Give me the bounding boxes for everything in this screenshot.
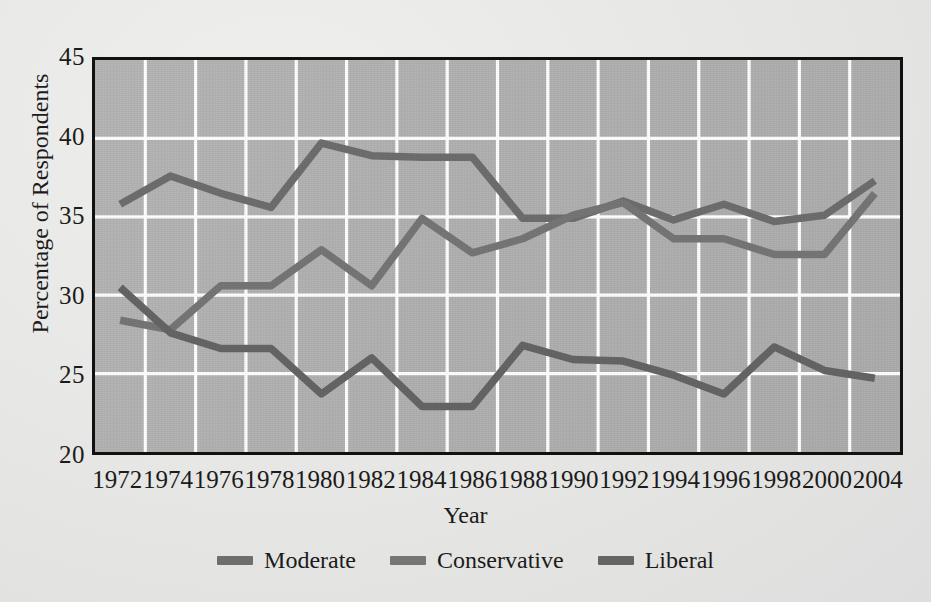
legend-label: Moderate xyxy=(264,548,356,572)
x-tick-label: 1996 xyxy=(701,466,751,494)
x-tick-label: 1990 xyxy=(549,466,599,494)
x-tick-label: 1988 xyxy=(498,466,548,494)
y-tick-label: 35 xyxy=(59,202,85,230)
y-tick-label: 40 xyxy=(59,123,85,151)
legend-label: Conservative xyxy=(437,548,564,572)
x-tick-label: 1998 xyxy=(751,466,801,494)
legend-label: Liberal xyxy=(645,548,714,572)
series-line-liberal xyxy=(120,287,875,406)
legend-item-moderate[interactable]: Moderate xyxy=(217,548,356,572)
series-lines xyxy=(95,60,900,452)
y-tick-label: 20 xyxy=(59,441,85,469)
x-tick-label: 1972 xyxy=(92,466,142,494)
plot-area xyxy=(92,57,903,455)
figure: 202530354045 Percentage of Respondents 1… xyxy=(0,0,931,602)
x-tick-label: 1974 xyxy=(143,466,193,494)
x-tick-label: 2000 xyxy=(802,466,852,494)
x-tick-label: 1986 xyxy=(447,466,497,494)
legend-swatch-icon xyxy=(390,556,426,565)
y-tick-label: 30 xyxy=(59,282,85,310)
legend-swatch-icon xyxy=(598,556,634,565)
x-tick-label: 1976 xyxy=(194,466,244,494)
chart-legend: ModerateConservativeLiberal xyxy=(0,548,931,572)
x-tick-label: 2004 xyxy=(853,466,903,494)
legend-item-liberal[interactable]: Liberal xyxy=(598,548,714,572)
x-axis-title: Year xyxy=(0,502,931,529)
legend-item-conservative[interactable]: Conservative xyxy=(390,548,564,572)
y-axis-title: Percentage of Respondents xyxy=(27,4,54,404)
x-tick-label: 1994 xyxy=(650,466,700,494)
legend-swatch-icon xyxy=(217,556,253,565)
x-tick-label: 1978 xyxy=(244,466,294,494)
x-axis-ticks: 1972197419761978198019821984198619881990… xyxy=(92,466,903,498)
y-tick-label: 25 xyxy=(59,361,85,389)
x-tick-label: 1982 xyxy=(346,466,396,494)
x-tick-label: 1984 xyxy=(396,466,446,494)
x-tick-label: 1992 xyxy=(599,466,649,494)
y-tick-label: 45 xyxy=(59,43,85,71)
x-tick-label: 1980 xyxy=(295,466,345,494)
series-line-moderate xyxy=(120,143,875,221)
